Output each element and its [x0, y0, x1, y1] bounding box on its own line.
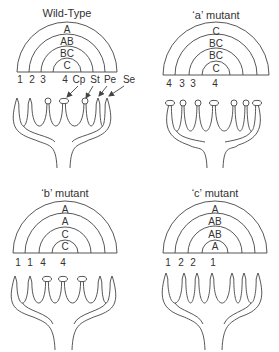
abc-model-figure: Wild-TypeAABBCC1234CpStPeSe‘a’ mutantCBC… — [0, 0, 279, 352]
petal-tip — [28, 98, 32, 104]
organ-loop — [32, 104, 47, 126]
organ-loop — [168, 279, 182, 303]
whorl-organ-number: 3 — [190, 78, 196, 89]
carpel-head — [166, 100, 175, 105]
panel-title: Wild-Type — [43, 7, 92, 19]
gene-label: AB — [208, 229, 222, 240]
sepal-tip — [105, 98, 109, 104]
whorl-organ-number: 4 — [62, 74, 68, 85]
panel-wild-type: Wild-TypeAABBCC1234CpStPeSe — [13, 7, 135, 168]
stem-left-contour — [167, 106, 207, 168]
carpel-head — [253, 100, 262, 105]
sepal-tip — [13, 276, 17, 282]
organ-loop — [100, 104, 105, 126]
organ-arrow — [67, 86, 78, 97]
organ-loop — [199, 106, 213, 131]
stamen-head — [180, 100, 186, 106]
organ-loop — [235, 106, 245, 131]
carpel-head — [210, 100, 219, 105]
stem-right-contour — [223, 106, 260, 168]
sepal-tip — [210, 273, 214, 279]
diagram-canvas: Wild-TypeAABBCC1234CpStPeSe‘a’ mutantCBC… — [0, 0, 279, 352]
organ-label: Se — [123, 74, 136, 85]
organ-loop — [215, 106, 233, 131]
organ-loop — [19, 104, 28, 126]
sepal-tip — [110, 276, 114, 282]
sepal-tip — [98, 276, 102, 282]
gene-label: A — [212, 241, 219, 252]
whorl-organ-number: 1 — [15, 257, 21, 268]
gene-label: C — [61, 229, 68, 240]
stem-right-contour — [72, 282, 116, 350]
sepal-tip — [256, 273, 260, 279]
stamen-head — [195, 100, 201, 106]
panel-title: ‘c’ mutant — [192, 187, 239, 199]
gene-label: AB — [208, 216, 222, 227]
whorl-organ-number: 1 — [17, 74, 23, 85]
stamen-head — [231, 100, 237, 106]
organ-loop — [49, 104, 63, 126]
petal-tip — [96, 98, 100, 104]
whorl-organ-number: 4 — [40, 257, 46, 268]
sepal-tip — [164, 273, 168, 279]
gene-label: AB — [60, 36, 74, 47]
whorl-organ-number: 3 — [40, 74, 46, 85]
whorl-organ-number: 2 — [29, 74, 35, 85]
gene-label: A — [64, 24, 71, 35]
gene-label: A — [62, 216, 69, 227]
organ-loop — [199, 279, 210, 303]
gene-label: C — [212, 26, 219, 37]
organ-arrow — [99, 86, 107, 96]
petal-tip — [242, 273, 246, 279]
organ-arrow — [86, 86, 93, 98]
organ-loop — [17, 282, 28, 303]
whorl-organ-number: 1 — [210, 257, 216, 268]
organ-label: Cp — [73, 74, 86, 85]
organ-loop — [214, 279, 230, 303]
receptacle-right-branch — [74, 303, 106, 324]
organ-arrow — [109, 86, 124, 96]
whorl-organ-number: 2 — [190, 257, 196, 268]
stamen-head — [243, 100, 249, 106]
sepal-tip — [28, 276, 32, 282]
gene-label: C — [61, 241, 68, 252]
receptacle-right-branch — [224, 303, 251, 324]
flower-diagram — [166, 100, 262, 168]
organ-loop — [247, 106, 256, 131]
organ-loop — [48, 282, 61, 303]
panel-b-mutant: ‘b’ mutantAACC1144 — [11, 187, 117, 350]
sepal-tip — [15, 98, 19, 104]
receptacle-left-branch — [24, 126, 56, 142]
gene-label: C — [212, 63, 219, 74]
organ-loop — [234, 279, 242, 303]
receptacle-left-branch — [23, 303, 54, 324]
whorl-organ-number: 3 — [179, 78, 185, 89]
receptacle-left-branch — [175, 303, 203, 324]
panel-title: ‘b’ mutant — [41, 187, 88, 199]
whorl-organ-number: 4 — [60, 257, 66, 268]
flower-diagram — [11, 276, 116, 350]
organ-loop — [83, 282, 98, 303]
petal-tip — [182, 273, 186, 279]
organ-loop — [102, 282, 110, 303]
receptacle-right-branch — [72, 126, 103, 142]
organ-loop — [184, 106, 197, 131]
whorl-organ-number: 4 — [212, 78, 218, 89]
panel-title: ‘a’ mutant — [192, 9, 239, 21]
organ-loop — [64, 282, 80, 303]
organ-loop — [86, 104, 96, 126]
whorl-organ-number: 4 — [166, 78, 172, 89]
stamen-head — [82, 98, 88, 104]
gene-label: BC — [60, 48, 74, 59]
receptacle-right-branch — [225, 131, 252, 142]
stem-left-contour — [13, 104, 57, 168]
organ-loop — [32, 282, 46, 303]
whorl-organ-number: 1 — [165, 257, 171, 268]
petal-tip — [230, 273, 234, 279]
gene-label: BC — [209, 38, 223, 49]
organ-loop — [171, 106, 182, 131]
stamen-head — [45, 98, 51, 104]
gene-label: BC — [209, 50, 223, 61]
petal-tip — [195, 273, 199, 279]
organ-label: St — [90, 74, 100, 85]
